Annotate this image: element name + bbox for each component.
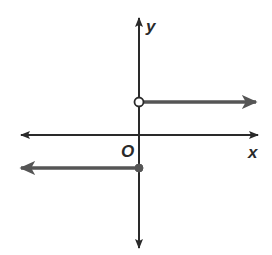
step-function-graph: x y O: [0, 0, 272, 255]
y-axis-label: y: [145, 17, 157, 36]
x-axis-label: x: [247, 143, 259, 162]
origin-label: O: [121, 142, 134, 161]
closed-point: [135, 164, 143, 172]
open-point: [135, 98, 144, 107]
